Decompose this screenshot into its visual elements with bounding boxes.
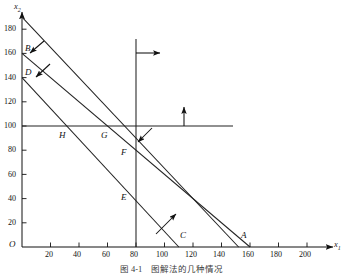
point-label-G: G [101, 131, 108, 140]
y-tick-80: 80 [8, 146, 16, 154]
point-label-F: F [121, 148, 127, 157]
arrow-at-B [30, 41, 44, 53]
x-tick-60: 60 [102, 251, 110, 259]
y-tick-100: 100 [4, 122, 16, 130]
y-tick-140: 140 [4, 74, 16, 82]
figure-container: x2 x1 O 20 40 60 80 100 120 140 160 180 … [0, 0, 343, 277]
figure-caption: 图 4-1 图解法的几种情况 [0, 262, 343, 275]
x-tick-20: 20 [45, 251, 53, 259]
x-tick-40: 40 [73, 251, 81, 259]
constraint-lines [22, 17, 250, 247]
point-label-H: H [59, 131, 66, 140]
point-label-E: E [121, 193, 127, 202]
y-tick-120: 120 [4, 98, 16, 106]
x-tick-140: 140 [213, 251, 225, 259]
y-tick-40: 40 [8, 195, 16, 203]
constraint-line-DC [22, 78, 179, 247]
objective-line-upper [22, 17, 239, 247]
x-tick-160: 160 [242, 251, 254, 259]
point-label-A: A [241, 231, 247, 240]
y-tick-180: 180 [4, 25, 16, 33]
point-label-D: D [25, 68, 32, 77]
x-tick-180: 180 [270, 251, 282, 259]
point-label-C: C [180, 231, 186, 240]
y-tick-60: 60 [8, 171, 16, 179]
y-tick-20: 20 [8, 219, 16, 227]
axis-lines [22, 12, 333, 247]
x-axis-label: x1 [334, 240, 341, 251]
x-tick-80: 80 [130, 251, 138, 259]
point-label-B: B [25, 44, 31, 53]
arrow-at-C [156, 214, 176, 234]
x-tick-120: 120 [185, 251, 197, 259]
graph-canvas [0, 0, 343, 277]
x-tick-100: 100 [156, 251, 168, 259]
y-tick-160: 160 [4, 49, 16, 57]
x-tick-200: 200 [299, 251, 311, 259]
origin-label: O [9, 240, 16, 249]
arrow-at-F [138, 128, 152, 142]
y-axis-label: x2 [14, 2, 21, 13]
